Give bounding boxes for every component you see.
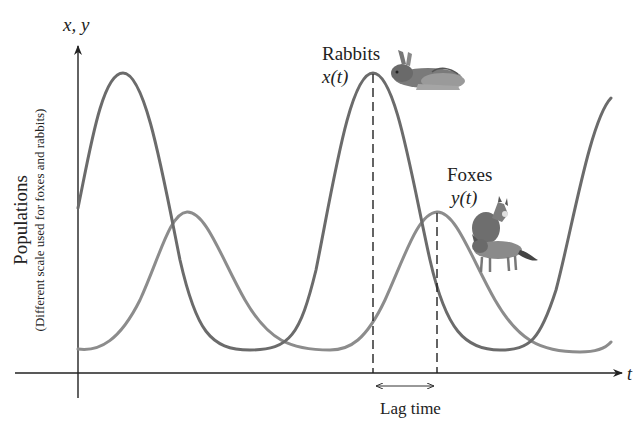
predator-prey-diagram <box>0 0 640 441</box>
rabbits-label: Rabbits <box>322 43 380 65</box>
y-axis-title: Populations <box>10 70 32 370</box>
rabbit-icon <box>391 50 465 90</box>
foxes-label: Foxes <box>447 164 492 186</box>
foxes-function-label: y(t) <box>451 187 477 209</box>
x-axis-label: t <box>627 364 632 385</box>
rabbits-curve <box>78 73 611 350</box>
fox-icon <box>472 196 538 272</box>
rabbits-function-label: x(t) <box>322 66 348 88</box>
y-axis-label: x, y <box>63 14 89 36</box>
foxes-curve <box>78 212 611 352</box>
lag-time-label: Lag time <box>380 399 441 419</box>
y-axis-title-block: Populations (Different scale used for fo… <box>10 70 60 370</box>
y-axis-subtitle: (Different scale used for foxes and rabb… <box>32 70 48 370</box>
